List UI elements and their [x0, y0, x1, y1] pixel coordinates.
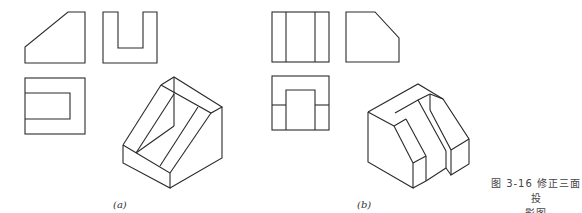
figure-caption: 图 3-16 修正三面投 影图	[490, 176, 582, 213]
figure-caption-line-2: 影图	[490, 206, 582, 213]
subfigure-b-top-view	[272, 76, 329, 130]
subfigure-a	[25, 12, 222, 188]
subfigure-b-front-view	[272, 12, 329, 62]
figure-caption-line-1: 图 3-16 修正三面投	[490, 176, 582, 206]
subfigure-a-front-view	[25, 12, 85, 63]
subfigure-a-isometric-view	[123, 77, 222, 188]
subfigure-a-top-view	[25, 78, 85, 134]
subfigure-b-label: (b)	[357, 199, 371, 210]
subfigure-a-label: (a)	[113, 199, 127, 210]
subfigure-b-isometric-view	[368, 84, 469, 188]
subfigure-b-side-view	[346, 12, 399, 62]
subfigure-a-side-view	[103, 12, 157, 63]
subfigure-b	[272, 12, 469, 188]
